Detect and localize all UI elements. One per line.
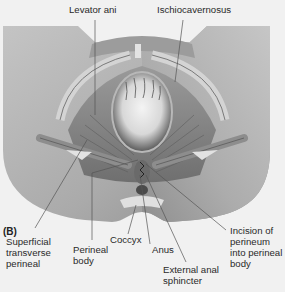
- fetal-head: [112, 72, 172, 152]
- label-external-anal-sphincter: External anal sphincter: [163, 264, 219, 286]
- label-ischiocavernosus: Ischiocavernosus: [157, 4, 231, 15]
- label-superficial-transverse-perineal: Superficial transverse perineal: [6, 236, 51, 269]
- label-levator-ani: Levator ani: [69, 4, 116, 15]
- label-perineal-body: Perineal body: [73, 244, 108, 266]
- label-coccyx: Coccyx: [110, 234, 141, 245]
- label-anus: Anus: [152, 244, 174, 255]
- label-incision-of-perineum: Incision of perineum into perineal body: [230, 225, 282, 269]
